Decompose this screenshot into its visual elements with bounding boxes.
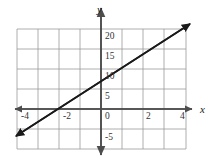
y-tick-label-20: 20 [105,31,115,41]
x-tick-label-neg4: -4 [21,111,29,121]
y-tick-label-neg5: -5 [105,132,113,142]
y-axis-tick-labels: 20 15 10 5 0 -5 [105,31,115,142]
x-tick-label-2: 2 [146,111,151,121]
coordinate-plane-figure: 20 15 10 5 0 -5 -4 -2 2 4 y x [0,0,213,163]
y-tick-label-0: 0 [105,111,110,121]
y-axis-name-label: y [96,3,102,15]
y-tick-label-15: 15 [105,51,115,61]
axes [15,8,192,155]
y-tick-label-10: 10 [105,71,115,81]
x-tick-label-4: 4 [180,111,185,121]
graph-canvas: 20 15 10 5 0 -5 -4 -2 2 4 y x [0,0,213,163]
x-tick-label-neg2: -2 [63,111,71,121]
y-tick-label-5: 5 [105,91,110,101]
x-axis-tick-labels: -4 -2 2 4 [21,111,185,121]
x-axis-name-label: x [199,103,205,115]
